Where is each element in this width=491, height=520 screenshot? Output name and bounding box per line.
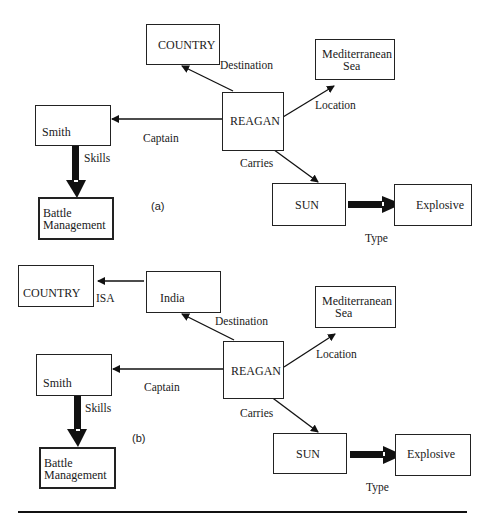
node-b-sun: SUN bbox=[273, 433, 347, 474]
node-label-line2: Management bbox=[43, 219, 106, 232]
edge-label-b-destination: Destination bbox=[215, 315, 268, 327]
node-label: COUNTRY bbox=[158, 39, 215, 52]
node-label: Smith bbox=[43, 377, 72, 390]
node-label: India bbox=[160, 292, 185, 305]
node-b-india: India bbox=[146, 271, 221, 313]
edge-label-a-captain: Captain bbox=[143, 132, 179, 144]
edge-label-a-skills: Skills bbox=[84, 152, 110, 164]
node-a-mediterranean-sea: Mediterranean Sea bbox=[315, 39, 395, 80]
caption-b: (b) bbox=[132, 432, 145, 444]
node-a-sun: SUN bbox=[272, 183, 346, 226]
node-b-mediterranean-sea: Mediterranean Sea bbox=[315, 286, 396, 328]
node-label: Explosive bbox=[416, 199, 464, 212]
node-b-smith: Smith bbox=[36, 354, 112, 396]
edge-label-a-carries: Carries bbox=[240, 157, 273, 169]
node-a-country: COUNTRY bbox=[146, 24, 220, 65]
edge-label-a-location: Location bbox=[315, 99, 356, 111]
edge-b-skills-bold-arrow bbox=[67, 395, 87, 447]
node-label: COUNTRY bbox=[23, 287, 80, 300]
edge-label-b-carries: Carries bbox=[240, 407, 273, 419]
node-label: Smith bbox=[42, 126, 71, 139]
edge-label-a-destination: Destination bbox=[220, 59, 273, 71]
caption-a: (a) bbox=[151, 200, 164, 212]
edge-label-a-type: Type bbox=[365, 232, 388, 244]
edge-label-b-isa: ISA bbox=[96, 292, 115, 304]
node-b-explosive: Explosive bbox=[395, 434, 471, 476]
node-label: REAGAN bbox=[230, 115, 280, 128]
node-label-line2: Sea bbox=[343, 60, 360, 73]
node-a-reagan: REAGAN bbox=[222, 92, 284, 151]
edge-label-b-type: Type bbox=[366, 481, 389, 493]
node-b-reagan: REAGAN bbox=[223, 341, 284, 399]
semantic-network-figure: COUNTRY REAGAN Mediterranean Sea Smith B… bbox=[0, 0, 491, 520]
node-label-line2: Management bbox=[44, 469, 107, 482]
node-label-line2: Sea bbox=[335, 307, 352, 320]
node-label: REAGAN bbox=[231, 365, 281, 378]
edge-a-skills-bold-arrow bbox=[66, 146, 86, 198]
node-label: SUN bbox=[296, 448, 320, 461]
node-a-smith: Smith bbox=[35, 105, 111, 146]
node-b-country: COUNTRY bbox=[18, 265, 94, 307]
node-b-battle-management: Battle Management bbox=[39, 447, 116, 489]
edge-label-b-skills: Skills bbox=[85, 402, 111, 414]
edge-label-b-location: Location bbox=[316, 348, 357, 360]
edge-label-b-captain: Captain bbox=[144, 381, 180, 393]
bottom-rule-divider bbox=[18, 511, 467, 513]
node-a-battle-management: Battle Management bbox=[38, 197, 114, 240]
node-label: SUN bbox=[295, 199, 319, 212]
node-a-explosive: Explosive bbox=[394, 184, 472, 226]
node-label: Explosive bbox=[407, 448, 455, 461]
node-label-line1: Mediterranean bbox=[322, 295, 392, 308]
